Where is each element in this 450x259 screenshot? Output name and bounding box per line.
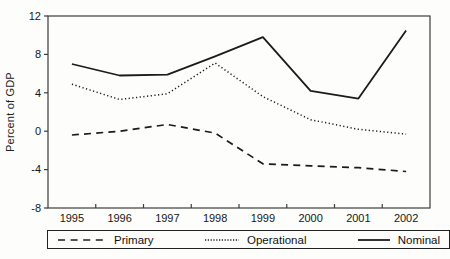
x-tick-label: 2000 [298,212,322,224]
y-tick-label: 8 [35,48,41,60]
legend-item-nominal: Nominal [357,234,440,246]
x-tick-label: 1999 [251,212,275,224]
x-tick-label: 1996 [107,212,131,224]
legend-label-primary: Primary [114,234,154,246]
y-tick-label: -8 [31,202,41,214]
legend-label-nominal: Nominal [398,234,440,246]
dotted-line-swatch [204,236,240,244]
y-tick-label: 4 [35,87,41,99]
y-tick-label: 0 [35,125,41,137]
solid-line-swatch [357,236,391,244]
legend: Primary Operational Nominal [47,230,450,249]
x-tick-label: 1995 [60,212,84,224]
line-chart: 12840-4-81995199619971998199920002001200… [0,0,447,230]
legend-item-primary: Primary [57,234,154,246]
series-nominal [72,30,406,98]
y-tick-label: 12 [29,10,41,22]
x-tick-label: 1998 [203,212,227,224]
legend-item-operational: Operational [204,234,306,246]
x-tick-label: 2002 [394,212,418,224]
legend-label-operational: Operational [247,234,306,246]
x-tick-label: 2001 [346,212,370,224]
x-tick-label: 1997 [155,212,179,224]
plot-frame [48,16,430,208]
dashed-line-swatch [57,236,107,244]
y-tick-label: -4 [31,163,41,175]
series-primary [72,125,406,172]
